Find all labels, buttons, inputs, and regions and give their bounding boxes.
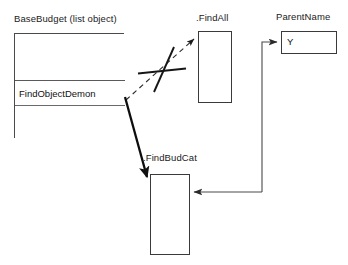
basebudget-cell-top [15, 34, 125, 81]
basebudget-box: FindObjectDemon [14, 33, 124, 138]
basebudget-label: BaseBudget (list object) [14, 13, 117, 24]
findall-label: .FindAll [196, 12, 228, 23]
basebudget-cell-findobjectdemon[interactable]: FindObjectDemon [15, 81, 125, 106]
findall-box [198, 31, 232, 103]
diagram-canvas: BaseBudget (list object) .FindAll Parent… [0, 0, 348, 265]
parentname-label: ParentName [276, 11, 330, 22]
findbudcat-label: .FindBudCat [143, 152, 197, 163]
cross-out-mark [138, 47, 186, 92]
dashed-connector-line [126, 39, 194, 100]
cross-stroke-diagonal [154, 47, 174, 92]
cross-stroke-horizontal [138, 69, 186, 74]
edge-findobjectdemon-to-findbudcat [125, 97, 147, 177]
basebudget-cell-bottom [15, 106, 125, 139]
solid-thick-connector-line [125, 97, 147, 177]
route-to-parentname [262, 42, 277, 192]
findobjectdemon-text: FindObjectDemon [19, 88, 96, 99]
edge-findobjectdemon-to-findall [126, 39, 194, 100]
parentname-box: Y [281, 31, 337, 54]
parentname-value: Y [287, 36, 293, 47]
findbudcat-box [150, 174, 190, 255]
